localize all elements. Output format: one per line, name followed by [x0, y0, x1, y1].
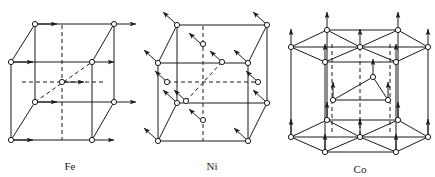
- fe-body-center-atom: [59, 79, 64, 84]
- caption-ni: Ni: [207, 160, 218, 172]
- figure-canvas: Fe Ni Co: [0, 0, 435, 177]
- ni-cube-edges: [158, 25, 267, 141]
- ni-face-center-atom: [164, 79, 169, 84]
- co-mid-layer-atom: [370, 74, 375, 79]
- ni-face-center-atom: [219, 59, 224, 64]
- ni-face-center-atom: [255, 79, 260, 84]
- ni-atoms: [155, 22, 269, 143]
- co-mid-layer-atom: [385, 97, 390, 102]
- co-moment-arrows: [291, 12, 428, 150]
- ni-construction-lines: [167, 26, 258, 141]
- caption-fe: Fe: [65, 160, 76, 172]
- panel-fe: [8, 21, 136, 142]
- panel-ni: [144, 12, 270, 144]
- ni-face-center-atom: [200, 41, 205, 46]
- ni-face-center-atom: [200, 117, 205, 122]
- ni-face-center-atom: [183, 98, 188, 103]
- crystal-structure-figure: Fe Ni Co: [0, 0, 435, 177]
- co-mid-layer-atom: [330, 97, 335, 102]
- caption-co: Co: [354, 163, 367, 175]
- panel-co: [288, 12, 430, 155]
